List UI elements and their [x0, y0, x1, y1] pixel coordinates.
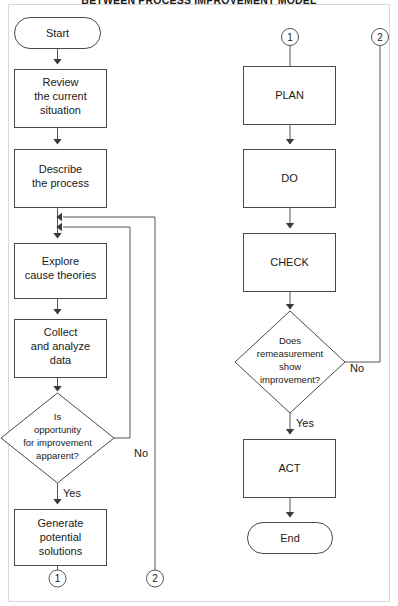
node-describe-process-line1: Describe [39, 163, 82, 175]
branch-label-no-right: No [350, 362, 364, 374]
arrowhead-check-icon [286, 223, 294, 229]
node-collect-line1: Collect [44, 326, 78, 338]
flowchart-canvas: Start Review the current situation Descr… [0, 0, 398, 606]
node-decision-remeasurement-line4: improvement? [260, 374, 320, 385]
node-generate-line1: Generate [38, 517, 84, 529]
node-plan-label: PLAN [275, 89, 304, 101]
connector-bottom-one-label: 1 [55, 573, 61, 584]
node-decision-remeasurement-line3: show [279, 361, 301, 372]
node-end-label: End [280, 532, 300, 544]
node-explore-line1: Explore [42, 255, 79, 267]
node-review-situation-line3: situation [40, 104, 81, 116]
arrowhead-end-icon [286, 512, 294, 518]
branch-label-yes-right: Yes [296, 417, 314, 429]
arrowhead-decision-left-icon [53, 386, 61, 392]
connector-top-one-label: 1 [287, 32, 293, 43]
node-generate-line2: potential [40, 531, 82, 543]
node-explore-line2: cause theories [25, 269, 97, 281]
arrowhead-explore-icon [53, 233, 61, 239]
branch-label-no-left: No [134, 447, 148, 459]
node-review-situation-line2: the current [34, 90, 87, 102]
node-decision-opportunity-line1: Is [54, 411, 62, 422]
connector-top-two-label: 2 [377, 32, 383, 43]
arrowhead-act-icon [286, 429, 294, 435]
node-collect-line3: data [50, 354, 72, 366]
arrowhead-generate-icon [53, 499, 61, 505]
node-start-label: Start [46, 27, 69, 39]
arrowhead-do-icon [286, 139, 294, 145]
branch-label-yes-left: Yes [63, 487, 81, 499]
node-collect-line2: and analyze [31, 340, 90, 352]
node-decision-opportunity-line4: apparent? [36, 450, 79, 461]
connector-bottom-two-label: 2 [152, 573, 158, 584]
node-decision-opportunity-line3: for improvement [23, 437, 92, 448]
flowchart-figure: BETWEEN PROCESS IMPROVEMENT MODEL Start … [0, 0, 398, 606]
node-act-label: ACT [279, 462, 301, 474]
arrowhead-decision-right-icon [286, 304, 294, 310]
flowline-decision-no-right [345, 46, 380, 363]
arrowhead-review-icon [53, 59, 61, 65]
node-decision-remeasurement-line2: remeasurement [257, 348, 324, 359]
arrowhead-describe-icon [53, 139, 61, 145]
node-review-situation-line1: Review [42, 76, 78, 88]
node-do-label: DO [281, 172, 298, 184]
node-check-label: CHECK [270, 256, 309, 268]
node-decision-remeasurement-line1: Does [279, 335, 301, 346]
node-decision-opportunity-line2: opportunity [34, 424, 81, 435]
node-describe-process-line2: the process [32, 177, 89, 189]
arrowhead-collect-icon [53, 309, 61, 315]
node-generate-line3: solutions [39, 545, 83, 557]
